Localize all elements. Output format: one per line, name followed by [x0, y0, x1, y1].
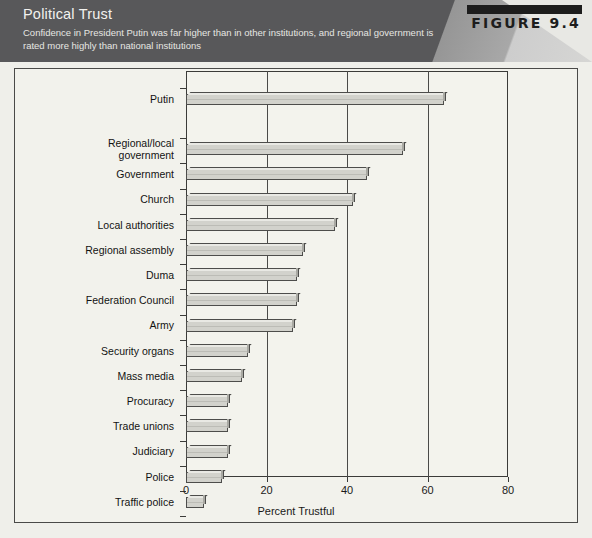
bar-side-face: [292, 319, 295, 328]
bar-side-face: [402, 142, 405, 151]
bar-side-face: [227, 445, 230, 454]
category-label-duma: Duma: [146, 270, 174, 282]
bar-top-face: [188, 470, 226, 473]
category-label-security-organs: Security organs: [101, 346, 174, 358]
bar-side-face: [227, 394, 230, 403]
bar-putin: [186, 94, 444, 105]
bar-trade-unions: [186, 421, 228, 432]
gridline-40: [347, 71, 348, 477]
y-tick-3: [180, 189, 186, 190]
x-tick-label-80: 80: [502, 484, 514, 496]
bar-top-face: [188, 369, 246, 372]
y-tick-2: [180, 163, 186, 164]
x-tick-60: [428, 477, 429, 482]
bar-top-face: [188, 142, 407, 145]
bar-top-face: [188, 92, 448, 95]
bar-top-face: [188, 243, 307, 246]
bar-top-face: [188, 419, 232, 422]
category-label-local-authorities: Local authorities: [98, 220, 174, 232]
bar-highlight: [187, 326, 292, 327]
bar-side-face: [247, 344, 250, 353]
bar-highlight: [187, 250, 302, 251]
bar-side-face: [352, 193, 355, 202]
bar-highlight: [187, 275, 296, 276]
y-tick-7: [180, 289, 186, 290]
bar-regional-assembly: [186, 245, 303, 256]
bar-top-face: [188, 344, 252, 347]
category-label-federation-council: Federation Council: [86, 295, 174, 307]
category-label-trade-unions: Trade unions: [113, 421, 174, 433]
y-tick-1: [180, 138, 186, 139]
bar-side-face: [296, 293, 299, 302]
y-tick-8: [180, 315, 186, 316]
bar-side-face: [227, 419, 230, 428]
category-label-regional-assembly: Regional assembly: [85, 245, 174, 257]
bar-side-face: [443, 92, 446, 101]
bar-side-face: [334, 218, 337, 227]
bar-church: [186, 195, 353, 206]
gridline-60: [428, 71, 429, 477]
bar-regional-local-government: [186, 144, 403, 155]
bar-top-face: [188, 445, 232, 448]
bar-duma: [186, 270, 297, 281]
bar-top-face: [188, 319, 297, 322]
figure-root: Political Trust Confidence in President …: [0, 0, 592, 538]
category-label-police: Police: [145, 472, 174, 484]
category-label-church: Church: [140, 194, 174, 206]
bar-side-face: [241, 369, 244, 378]
y-tick-0: [180, 88, 186, 89]
y-tick-14: [180, 466, 186, 467]
y-tick-5: [180, 239, 186, 240]
x-tick-label-60: 60: [421, 484, 433, 496]
category-label-government: Government: [116, 169, 174, 181]
bar-highlight: [187, 300, 296, 301]
x-tick-80: [508, 477, 509, 482]
bar-highlight: [187, 452, 227, 453]
y-tick-12: [180, 415, 186, 416]
bar-army: [186, 321, 293, 332]
category-label-mass-media: Mass media: [117, 371, 174, 383]
category-label-judiciary: Judiciary: [133, 446, 174, 458]
y-tick-6: [180, 264, 186, 265]
x-tick-40: [347, 477, 348, 482]
bar-judiciary: [186, 447, 228, 458]
bar-highlight: [187, 376, 241, 377]
bar-highlight: [187, 426, 227, 427]
bar-top-face: [188, 268, 301, 271]
bar-top-face: [188, 193, 357, 196]
chart-plot: 020406080 PutinRegional/local government…: [0, 0, 592, 538]
category-label-army: Army: [150, 320, 175, 332]
bar-highlight: [187, 225, 334, 226]
bar-side-face: [302, 243, 305, 252]
bar-highlight: [187, 149, 402, 150]
bar-highlight: [187, 99, 443, 100]
category-label-procuracy: Procuracy: [127, 396, 174, 408]
bar-highlight: [187, 174, 366, 175]
bar-highlight: [187, 502, 203, 503]
y-tick-4: [180, 214, 186, 215]
category-label-putin: Putin: [150, 94, 174, 106]
bar-security-organs: [186, 346, 248, 357]
bar-side-face: [366, 167, 369, 176]
x-tick-20: [267, 477, 268, 482]
y-tick-11: [180, 390, 186, 391]
bar-highlight: [187, 401, 227, 402]
x-tick-label-20: 20: [260, 484, 272, 496]
bar-government: [186, 169, 367, 180]
bar-mass-media: [186, 371, 242, 382]
category-label-regional-local-government: Regional/local government: [108, 138, 174, 161]
bar-top-face: [188, 167, 371, 170]
bar-highlight: [187, 200, 352, 201]
bar-local-authorities: [186, 220, 335, 231]
x-axis-title: Percent Trustful: [0, 505, 592, 517]
bar-federation-council: [186, 295, 297, 306]
bar-procuracy: [186, 396, 228, 407]
y-tick-10: [180, 365, 186, 366]
bar-top-face: [188, 218, 339, 221]
bar-top-face: [188, 394, 232, 397]
x-tick-label-0: 0: [183, 484, 189, 496]
bar-side-face: [221, 470, 224, 479]
bar-side-face: [296, 268, 299, 277]
bar-police: [186, 472, 222, 483]
x-tick-label-40: 40: [341, 484, 353, 496]
